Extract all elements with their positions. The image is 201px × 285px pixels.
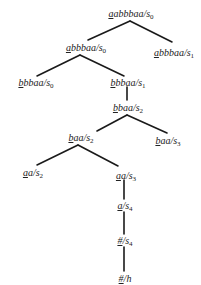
tape-rest: bbaa <box>23 77 43 88</box>
edge-n1-n4 <box>80 55 124 76</box>
edge-n0-n2 <box>130 21 172 42</box>
state-index: 2 <box>40 172 44 180</box>
tree-node-n2: abbbaa/s1 <box>154 47 194 62</box>
tree-node-halt: #/h <box>119 273 132 285</box>
tape-rest: aa <box>160 135 170 146</box>
tree-node-n5: bbaa/s2 <box>113 102 143 117</box>
tree-node-n3: bbbaa/s0 <box>18 77 53 92</box>
tape-rest: abbbaa <box>113 8 143 19</box>
tree-node-n9: aa/s3 <box>116 170 136 185</box>
tree-node-n6: baa/s2 <box>68 132 93 147</box>
state-index: 4 <box>129 240 133 248</box>
tape-rest: bbbaa <box>71 42 96 53</box>
state-index: 1 <box>191 52 195 60</box>
state-index: 2 <box>140 107 144 115</box>
tape-rest: bbbaa <box>159 47 184 58</box>
halt-state-letter: h <box>126 273 131 284</box>
tree-node-n10: a/s4 <box>117 200 132 215</box>
state-index: 3 <box>177 140 181 148</box>
state-index: 3 <box>133 175 137 183</box>
tree-node-n4: bbbaa/s1 <box>110 77 145 92</box>
edge-n0-n1 <box>88 21 130 40</box>
tree-node-n11: #/s4 <box>117 235 132 250</box>
edge-n1-n3 <box>37 55 80 76</box>
edge-n6-n8 <box>37 145 78 165</box>
edge-n6-n9 <box>78 145 118 166</box>
tape-rest: baa <box>118 102 133 113</box>
tree-node-n7: baa/s3 <box>155 135 180 150</box>
edge-n5-n6 <box>97 115 127 131</box>
tree-node-n1: abbbaa/s0 <box>66 42 106 57</box>
state-index: 0 <box>103 47 107 55</box>
state-index: 0 <box>150 13 154 21</box>
tree-node-root: aabbbaa/s0 <box>108 8 153 23</box>
state-index: 0 <box>50 82 54 90</box>
tape-rest: bbaa <box>115 77 135 88</box>
state-index: 1 <box>142 82 146 90</box>
state-index: 4 <box>129 205 133 213</box>
state-index: 2 <box>90 137 94 145</box>
tape-rest: aa <box>73 132 83 143</box>
tree-node-n8: aa/s2 <box>23 167 43 182</box>
edge-n5-n7 <box>127 115 167 133</box>
